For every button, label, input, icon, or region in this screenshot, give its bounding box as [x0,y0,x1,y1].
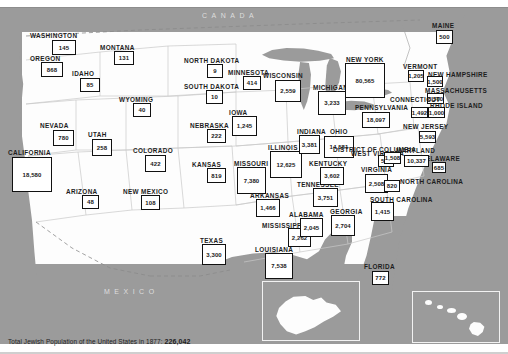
state-name-label: WYOMING [119,96,153,103]
state-population-box: 3,233 [318,91,346,115]
state-name-label: NORTH CAROLINA [400,178,463,185]
state-population-box: 1,205 [408,70,424,82]
state-population-box: 40 [133,103,151,117]
state-population-box: 772 [372,271,389,285]
state-name-label: VERMONT [403,63,437,70]
state-name-label: WISCONSIN [263,72,303,79]
state-name-label: TEXAS [200,237,223,244]
state-population-box: 18,580 [12,157,52,192]
state-name-label: OHIO [330,128,348,135]
alaska-landmass [275,296,341,336]
state-population-box: 819 [207,168,226,183]
state-population-box: 685 [432,162,446,173]
state-population-box: 422 [145,155,166,172]
state-population-box: 145 [52,40,76,55]
state-name-label: KENTUCKY [309,160,347,167]
state-name-label: GEORGIA [330,208,363,215]
hawaii-island-big-island [469,322,485,336]
state-name-label: UTAH [88,131,107,138]
state-population-box: 1,492 [411,107,428,118]
state-name-label: NEW YORK [346,56,384,63]
state-name-label: IDAHO [72,70,94,77]
state-population-box: 7,380 [237,167,266,194]
state-name-label: KANSAS [192,161,221,168]
state-name-label: CONNECTICUT [390,96,440,103]
state-population-box: 2,559 [275,80,301,102]
state-population-box: 780 [53,130,74,146]
hawaii-island-maui [457,313,467,320]
map-caption: Total Jewish Population of the United St… [8,338,190,345]
state-name-label: SOUTH DAKOTA [184,83,239,90]
state-population-box: 3,381 [299,135,320,154]
state-population-box: 7,538 [265,253,293,279]
state-name-label: DISTRICT OF COLUMBIA [333,146,416,153]
state-name-label: OREGON [30,55,61,62]
state-name-label: MICHIGAN [313,84,348,91]
state-name-label: INDIANA [297,128,326,135]
state-population-box: 48 [82,195,99,209]
state-population-box: 5,593 [419,131,436,143]
state-name-label: VIRGINIA [361,166,392,173]
jewish-population-map-1877: CANADA MEXICO WASHINGTON145OREGON868IDAH… [0,0,508,354]
state-population-box: 18,097 [362,112,390,128]
state-name-label: ARIZONA [66,188,98,195]
state-population-box: 10,337 [404,155,429,167]
state-population-box: 820 [384,180,400,192]
caption-total-value: 226,042 [164,338,190,345]
state-population-box: 1,508 [384,152,401,164]
state-name-label: ILLINOIS [268,144,298,151]
hawaii-island-oahu [437,305,443,309]
state-population-box: 108 [141,195,160,210]
hawaii-island-kauai [425,300,432,305]
state-name-label: MAINE [432,22,454,29]
state-population-box: 10 [206,90,223,104]
state-name-label: IOWA [229,109,247,116]
mexico-label: MEXICO [104,288,159,295]
alaska-inset [262,281,360,341]
state-population-box: 2,704 [331,215,355,236]
state-name-label: ARKANSAS [250,192,289,199]
state-population-box: 1,000 [428,107,445,118]
state-name-label: PENNSYLVANIA [355,104,408,111]
state-population-box: 500 [436,30,453,44]
state-population-box: 1,245 [232,116,257,136]
state-name-label: FLORIDA [364,263,395,270]
state-name-label: NEW MEXICO [123,188,168,195]
state-name-label: LOUISIANA [255,246,293,253]
state-population-box: 12,625 [270,151,302,178]
state-name-label: ALABAMA [289,211,324,218]
state-name-label: MONTANA [100,44,135,51]
state-name-label: WASHINGTON [30,32,77,39]
state-population-box: 3,602 [320,167,344,185]
state-population-box: 868 [41,62,63,77]
state-name-label: NEBRASKA [190,122,229,129]
state-population-box: 414 [243,76,261,90]
hawaii-island-molokai [447,308,456,313]
state-name-label: NEW JERSEY [403,123,448,130]
state-name-label: NORTH DAKOTA [184,57,240,64]
state-population-box: 131 [114,51,134,65]
state-population-box: 1,500 [427,76,443,87]
state-name-label: MISSOURI [234,160,268,167]
state-population-box: 3,751 [313,188,338,207]
state-population-box: 80,565 [345,63,385,98]
state-population-box: 1,415 [371,202,394,221]
caption-lead: Total Jewish Population of the United St… [8,338,144,345]
caption-year: 1877: [146,338,163,345]
state-population-box: 2,045 [300,218,323,237]
state-population-box: 85 [80,78,100,92]
hawaii-inset [412,291,500,343]
state-population-box: 1,466 [256,199,280,217]
state-name-label: NEVADA [40,122,69,129]
canada-label: CANADA [202,12,258,19]
state-population-box: 3,300 [202,244,226,265]
state-name-label: CALIFORNIA [8,149,51,156]
state-population-box: 258 [92,139,112,156]
state-name-label: COLORADO [133,147,173,154]
state-population-box: 222 [207,129,226,143]
state-population-box: 9 [207,64,223,78]
